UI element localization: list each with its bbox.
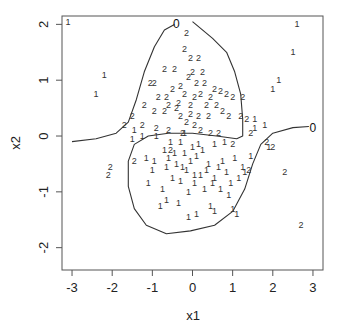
point-class-2: 2 [182, 89, 187, 99]
point-class-2: 2 [192, 120, 197, 130]
point-class-1: 1 [290, 47, 295, 57]
point-class-2: 2 [172, 64, 177, 74]
y-tick-label: 2 [36, 21, 51, 28]
point-class-2: 2 [230, 139, 235, 149]
point-class-2: 2 [240, 92, 245, 102]
point-class-2: 2 [184, 28, 189, 38]
point-class-2: 2 [226, 111, 231, 121]
point-class-1: 1 [196, 139, 201, 149]
point-class-1: 1 [276, 75, 281, 85]
point-class-1: 1 [102, 70, 107, 80]
point-class-2: 2 [176, 98, 181, 108]
point-class-2: 2 [142, 100, 147, 110]
point-class-1: 1 [94, 89, 99, 99]
point-class-2: 2 [198, 125, 203, 135]
point-class-1: 1 [180, 162, 185, 172]
point-class-2: 2 [140, 120, 145, 130]
x-tick-label: -2 [106, 280, 118, 295]
point-class-2: 2 [194, 78, 199, 88]
point-class-1: 1 [216, 162, 221, 172]
point-class-1: 1 [164, 195, 169, 205]
x-axis-title: x1 [186, 308, 200, 323]
point-class-1: 1 [194, 209, 199, 219]
point-class-1: 1 [222, 137, 227, 147]
point-class-1: 1 [262, 120, 267, 130]
point-class-2: 2 [208, 128, 213, 138]
point-class-1: 1 [190, 142, 195, 152]
point-class-1: 1 [174, 159, 179, 169]
point-class-2: 2 [152, 78, 157, 88]
point-class-2: 2 [198, 89, 203, 99]
point-class-2: 2 [182, 44, 187, 54]
point-class-2: 2 [188, 100, 193, 110]
y-tick-label: -1 [36, 186, 51, 198]
point-class-1: 1 [178, 176, 183, 186]
y-tick-label: 0 [36, 132, 51, 139]
point-class-2: 2 [204, 100, 209, 110]
point-class-1: 1 [234, 209, 239, 219]
point-class-1: 1 [248, 151, 253, 161]
point-class-2: 2 [170, 84, 175, 94]
point-class-1: 1 [212, 206, 217, 216]
point-class-1: 1 [182, 148, 187, 158]
point-class-1: 1 [210, 178, 215, 188]
point-class-2: 2 [214, 100, 219, 110]
point-class-2: 2 [166, 125, 171, 135]
point-class-2: 2 [122, 120, 127, 130]
point-class-2: 2 [168, 145, 173, 155]
contour-level-label: 0 [310, 121, 317, 135]
scatter-points: 1111111111111111111111111111111111111111… [66, 17, 304, 231]
point-class-1: 1 [132, 125, 137, 135]
point-class-2: 2 [264, 137, 269, 147]
point-class-2: 2 [246, 165, 251, 175]
x-tick-label: 3 [309, 280, 316, 295]
point-class-2: 2 [230, 92, 235, 102]
point-class-2: 2 [282, 167, 287, 177]
point-class-2: 2 [178, 111, 183, 121]
point-class-1: 1 [176, 198, 181, 208]
point-class-2: 2 [180, 128, 185, 138]
point-class-1: 1 [212, 139, 217, 149]
point-class-1: 1 [186, 212, 191, 222]
point-class-1: 1 [224, 167, 229, 177]
point-class-1: 1 [160, 184, 165, 194]
point-class-2: 2 [152, 106, 157, 116]
point-class-2: 2 [106, 170, 111, 180]
point-class-1: 1 [232, 153, 237, 163]
y-tick-label: -2 [36, 242, 51, 254]
point-class-2: 2 [212, 84, 217, 94]
point-class-1: 1 [164, 162, 169, 172]
point-class-1: 1 [270, 84, 275, 94]
point-class-1: 1 [140, 131, 145, 141]
point-class-1: 1 [66, 17, 71, 27]
point-class-2: 2 [164, 92, 169, 102]
point-class-2: 2 [186, 72, 191, 82]
point-class-2: 2 [248, 128, 253, 138]
point-class-2: 2 [156, 92, 161, 102]
point-class-2: 2 [218, 86, 223, 96]
x-tick-label: 1 [229, 280, 236, 295]
y-axis-title: x2 [8, 136, 23, 150]
point-class-2: 2 [298, 220, 303, 230]
point-class-2: 2 [244, 114, 249, 124]
point-class-2: 2 [132, 156, 137, 166]
point-class-1: 1 [146, 178, 151, 188]
point-class-2: 2 [188, 53, 193, 63]
point-class-1: 1 [218, 184, 223, 194]
point-class-2: 2 [184, 117, 189, 127]
point-class-1: 1 [202, 184, 207, 194]
point-class-2: 2 [162, 64, 167, 74]
point-class-2: 2 [196, 53, 201, 63]
y-axis: -2-1012 [36, 21, 62, 254]
y-tick-label: 1 [36, 77, 51, 84]
point-class-2: 2 [270, 142, 275, 152]
chart: -3-2-10123 -2-1012 111111111111111111111… [0, 0, 338, 327]
x-tick-label: -1 [147, 280, 159, 295]
point-class-1: 1 [144, 153, 149, 163]
point-class-1: 1 [198, 170, 203, 180]
point-class-1: 1 [158, 201, 163, 211]
point-class-2: 2 [206, 111, 211, 121]
point-class-1: 1 [186, 187, 191, 197]
point-class-1: 1 [236, 173, 241, 183]
point-class-1: 1 [226, 190, 231, 200]
